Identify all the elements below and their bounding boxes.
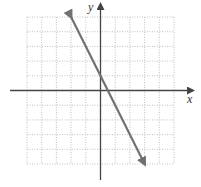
coordinate-plane	[0, 0, 201, 187]
x-axis-label: x	[187, 92, 192, 107]
y-axis-label: y	[88, 0, 93, 15]
